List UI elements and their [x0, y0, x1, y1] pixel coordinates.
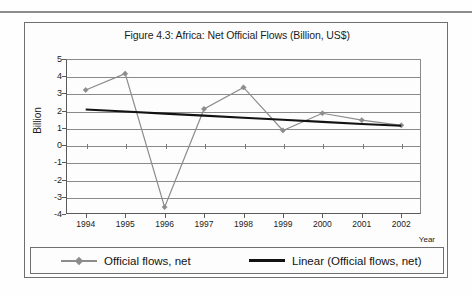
data-point-marker — [123, 71, 128, 76]
x-axis-tick-mark — [362, 214, 363, 218]
data-point-marker — [201, 106, 206, 111]
y-axis-tick-mark — [62, 162, 66, 163]
legend-label: Official flows, net — [104, 255, 191, 267]
legend-item-linear-trend[interactable]: Linear (Official flows, net) — [249, 252, 422, 270]
x-axis-tick-mark — [86, 214, 87, 218]
series-line-path — [86, 74, 402, 207]
x-axis-tick-label: 1995 — [116, 219, 135, 229]
x-axis-tick-label: 1994 — [76, 219, 95, 229]
x-axis-tick-mark — [322, 214, 323, 218]
chart-page: Figure 4.3: Africa: Net Official Flows (… — [0, 0, 472, 296]
x-axis-tick-label: 2002 — [392, 219, 411, 229]
y-axis-tick-label: -1 — [54, 157, 62, 167]
y-axis-tick-mark — [62, 93, 66, 94]
y-axis-tick-label: -2 — [54, 175, 62, 185]
y-axis-tick-labels: 543210-1-2-3-4 — [39, 59, 62, 214]
y-axis-tick-mark — [62, 128, 66, 129]
data-point-marker — [320, 111, 325, 116]
legend-item-official-flows-net[interactable]: Official flows, net — [61, 252, 191, 270]
y-axis-tick-mark — [62, 111, 66, 112]
data-point-marker — [162, 205, 167, 210]
x-axis-tick-mark — [204, 214, 205, 218]
chart-frame: Figure 4.3: Africa: Net Official Flows (… — [24, 22, 448, 278]
x-axis-tick-label: 1998 — [234, 219, 253, 229]
x-axis-tick-label: 1996 — [155, 219, 174, 229]
x-axis-tick-mark — [401, 214, 402, 218]
x-axis-title: Year — [419, 235, 435, 244]
x-axis-tick-mark — [244, 214, 245, 218]
data-point-marker — [359, 118, 364, 123]
y-axis-tick-mark — [62, 214, 66, 215]
y-axis-tick-label: -3 — [54, 192, 62, 202]
legend-swatch-line-icon — [249, 255, 285, 267]
x-axis-tick-label: 2000 — [313, 219, 332, 229]
y-axis-tick-mark — [62, 180, 66, 181]
y-axis-tick-mark — [62, 76, 66, 77]
legend-swatch-line-icon — [61, 255, 97, 267]
x-axis-tick-label: 2001 — [352, 219, 371, 229]
series-canvas — [66, 59, 421, 214]
data-point-marker — [83, 87, 88, 92]
y-axis-tick-mark — [62, 59, 66, 60]
legend-label: Linear (Official flows, net) — [292, 255, 422, 267]
plot-wrapper: Billion 543210-1-2-3-4 19941995199619971… — [25, 23, 449, 279]
y-axis-tick-mark — [62, 145, 66, 146]
x-axis-tick-label: 1997 — [195, 219, 214, 229]
y-axis-tick-label: -4 — [54, 209, 62, 219]
x-axis-tick-label: 1999 — [273, 219, 292, 229]
y-axis-tick-mark — [62, 197, 66, 198]
x-axis-tick-mark — [283, 214, 284, 218]
trendline-path — [86, 109, 402, 125]
chart-legend: Official flows, net Linear (Official flo… — [30, 247, 444, 274]
x-axis-tick-mark — [125, 214, 126, 218]
x-axis-tick-mark — [165, 214, 166, 218]
top-horizontal-rule — [0, 11, 472, 13]
